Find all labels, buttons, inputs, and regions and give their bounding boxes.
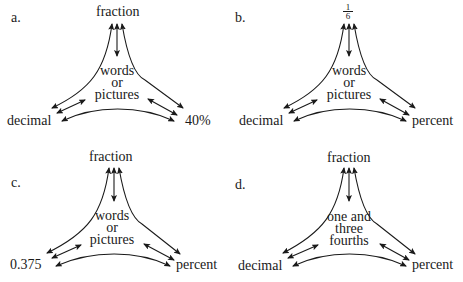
diagram-a: a. fraction decimal 40% words or picture… (0, 0, 231, 141)
left-label: decimal (239, 114, 283, 128)
right-label: 40% (185, 114, 211, 128)
top-label: fraction (327, 151, 371, 165)
diagram-b: b. 1 6 decimal percent words or pictures (232, 0, 463, 141)
top-label: fraction (96, 5, 140, 19)
center-label: words or pictures (72, 210, 152, 246)
diagram-c: c. fraction 0.375 percent words or pictu… (0, 141, 231, 282)
top-label: fraction (89, 150, 133, 164)
diagram-d: d. fraction decimal percent one and thre… (232, 141, 463, 282)
diagram-letter: c. (11, 176, 21, 190)
left-label: decimal (7, 114, 51, 128)
diagram-letter: a. (11, 11, 21, 25)
fraction-denominator: 6 (343, 12, 353, 20)
diagram-letter: d. (235, 178, 246, 192)
top-fraction: 1 6 (343, 3, 353, 20)
center-label: one and three fourths (309, 211, 389, 247)
center-label: words or pictures (77, 65, 157, 101)
right-label: percent (412, 114, 453, 128)
center-label: words or pictures (309, 65, 389, 101)
diagram-letter: b. (235, 11, 246, 25)
right-label: percent (176, 258, 217, 272)
left-label: decimal (238, 259, 282, 273)
left-label: 0.375 (10, 258, 42, 272)
right-label: percent (412, 258, 453, 272)
